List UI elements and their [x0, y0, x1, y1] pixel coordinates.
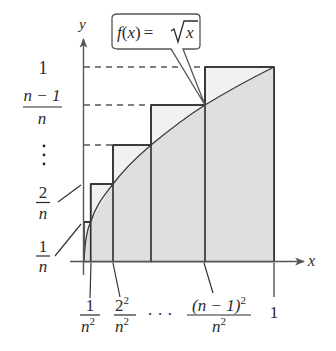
x-label-n-1-sq-den: n2 — [212, 315, 226, 336]
x-label-1: 1 — [270, 303, 279, 322]
y-label-2-den: n — [39, 204, 48, 223]
x-label-2sq-over-n2-num: 22 — [115, 294, 129, 315]
x-label-1-over-n2-den: n2 — [81, 315, 95, 336]
x-label-n-1-sq-num: (n − 1)2 — [192, 294, 246, 315]
vertical-dots — [43, 145, 46, 166]
y-label-1: 1 — [39, 58, 48, 78]
leader-2-over-n — [58, 185, 81, 202]
y-axis-labels: 1 n − 1 n 2 n 1 n — [23, 58, 81, 276]
x-label-1-over-n2-num: 1 — [86, 296, 95, 315]
function-callout: f(x)= x — [112, 14, 205, 105]
y-label-1n-num: 1 — [39, 237, 48, 256]
y-label-n-minus-1-den: n — [38, 109, 47, 128]
y-label-2-num: 2 — [39, 183, 48, 202]
x-label-2sq-over-n2-den: n2 — [115, 315, 129, 336]
y-axis-label: y — [77, 16, 86, 32]
x-label-ellipsis: · · · — [147, 305, 172, 324]
leader-1-over-n — [55, 224, 81, 256]
riemann-sum-figure: y x f(x)= x 1 n − 1 n 2 n 1 n — [0, 0, 336, 351]
x-axis-labels: 1 n2 22 n2 · · · (n − 1)2 n2 1 — [80, 263, 278, 336]
sqrt-argument: x — [185, 23, 194, 42]
svg-text:f(x)=: f(x)= — [117, 23, 153, 42]
x-axis-label: x — [307, 252, 315, 269]
y-label-n-minus-1-num: n − 1 — [24, 86, 61, 105]
y-label-1n-den: n — [39, 257, 48, 276]
